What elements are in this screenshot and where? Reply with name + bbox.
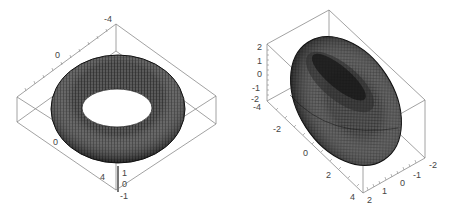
left-label-z-top: 1 — [122, 168, 127, 178]
right-label-x-m1: -1 — [413, 170, 421, 180]
right-label-y-2: 2 — [326, 170, 331, 180]
left-label-z-mid: 0 — [122, 179, 127, 189]
right-label-x-1: 1 — [382, 186, 387, 196]
right-label-y-m4: -4 — [253, 102, 261, 112]
right-label-z-1: 1 — [257, 56, 262, 66]
left-label-lower-edge: 0 — [53, 137, 58, 147]
left-label-upper-edge: 0 — [55, 50, 60, 60]
left-label-z-bottom: -1 — [120, 191, 128, 201]
figure-canvas: -4 0 0 4 1 0 -1 — [0, 0, 454, 214]
left-label-top: -4 — [104, 14, 112, 24]
right-label-y-4: 4 — [350, 192, 355, 202]
right-plot: 2 1 0 -1 -2 -4 -2 0 2 4 2 1 0 -1 -2 — [251, 10, 437, 205]
left-label-bottom-edge: 4 — [100, 172, 105, 182]
right-label-y-0: 0 — [303, 148, 308, 158]
right-label-x-2: 2 — [367, 195, 372, 205]
left-plot: -4 0 0 4 1 0 -1 — [17, 14, 216, 201]
left-torus-surface — [40, 50, 200, 170]
right-torus-surface — [268, 16, 425, 186]
right-label-z-0: 0 — [257, 69, 262, 79]
right-label-z-2: 2 — [257, 42, 262, 52]
right-label-x-0: 0 — [400, 178, 405, 188]
right-label-x-m2: -2 — [429, 160, 437, 170]
right-label-y-m2: -2 — [273, 124, 281, 134]
right-label-z-m1: -1 — [252, 83, 260, 93]
